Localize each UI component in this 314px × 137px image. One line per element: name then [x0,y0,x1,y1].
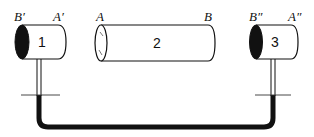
liquid-column [39,95,273,127]
cylinder-2-right-label: B [204,9,212,24]
cylinder-3-left-face [250,25,263,59]
cylinder-2-left-label: A [95,9,104,24]
cylinder-3-right-label: A″ [287,9,302,24]
cylinder-1-left-face [15,25,29,59]
cylinder-2: 2 A B [95,9,215,61]
cylinder-2-left-face [95,25,107,61]
cylinder-1-right-label: A′ [52,9,64,24]
cylinder-2-number: 2 [153,35,161,51]
connecting-tube [21,59,291,127]
cylinder-1-number: 1 [38,34,46,50]
cylinder-3-number: 3 [271,34,279,50]
cylinder-3-left-label: B″ [249,9,263,24]
diagram: 1 B′ A′ 2 A B 3 B″ A″ [0,0,314,137]
cylinder-1-left-label: B′ [14,9,25,24]
cylinder-1: 1 B′ A′ [14,9,66,59]
cylinder-3: 3 B″ A″ [249,9,302,59]
